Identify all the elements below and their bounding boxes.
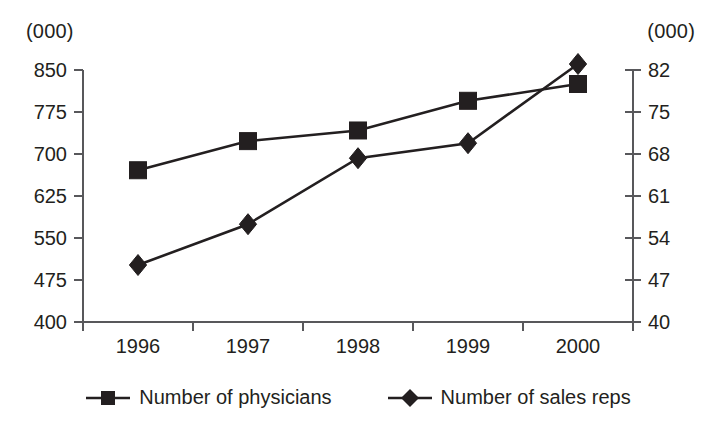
- data-point-marker[interactable]: [350, 122, 367, 139]
- data-point-marker[interactable]: [459, 133, 476, 154]
- line-chart-plot: 8507757006255504754008275686154474019961…: [0, 0, 717, 439]
- x-axis-category-label: 1997: [226, 335, 271, 357]
- data-point-marker[interactable]: [460, 92, 477, 109]
- right-axis-tick-label: 61: [648, 185, 670, 207]
- legend-label-sales-reps: Number of sales reps: [441, 386, 631, 409]
- data-point-marker[interactable]: [569, 54, 586, 75]
- left-axis-tick-label: 700: [34, 143, 67, 165]
- left-axis-tick-label: 400: [34, 311, 67, 333]
- chart-figure: (000) (000) 8507757006255504754008275686…: [0, 0, 717, 439]
- data-point-marker[interactable]: [239, 214, 256, 235]
- axis-left-bottom: [83, 70, 633, 322]
- left-axis-tick-label: 475: [34, 269, 67, 291]
- data-point-marker[interactable]: [240, 133, 257, 150]
- left-axis-tick-label: 625: [34, 185, 67, 207]
- left-axis-tick-label: 550: [34, 227, 67, 249]
- legend-item-sales-reps[interactable]: Number of sales reps: [388, 386, 631, 409]
- legend-label-physicians: Number of physicians: [139, 386, 331, 409]
- x-axis-category-label: 1999: [446, 335, 491, 357]
- x-axis-category-label: 2000: [556, 335, 601, 357]
- data-point-marker[interactable]: [130, 162, 147, 179]
- left-axis-tick-label: 850: [34, 59, 67, 81]
- data-point-marker[interactable]: [570, 76, 587, 93]
- data-point-marker[interactable]: [129, 255, 146, 276]
- square-marker-icon: [86, 388, 130, 408]
- data-point-marker[interactable]: [349, 148, 366, 169]
- diamond-marker-icon: [388, 388, 432, 408]
- right-axis-tick-label: 47: [648, 269, 670, 291]
- right-axis-tick-label: 68: [648, 143, 670, 165]
- legend-item-physicians[interactable]: Number of physicians: [86, 386, 331, 409]
- x-axis-category-label: 1998: [336, 335, 381, 357]
- right-axis-tick-label: 54: [648, 227, 670, 249]
- x-axis-category-label: 1996: [116, 335, 161, 357]
- right-axis-tick-label: 82: [648, 59, 670, 81]
- chart-legend: Number of physicians Number of sales rep…: [0, 386, 717, 409]
- left-axis-tick-label: 775: [34, 101, 67, 123]
- right-axis-tick-label: 75: [648, 101, 670, 123]
- right-axis-tick-label: 40: [648, 311, 670, 333]
